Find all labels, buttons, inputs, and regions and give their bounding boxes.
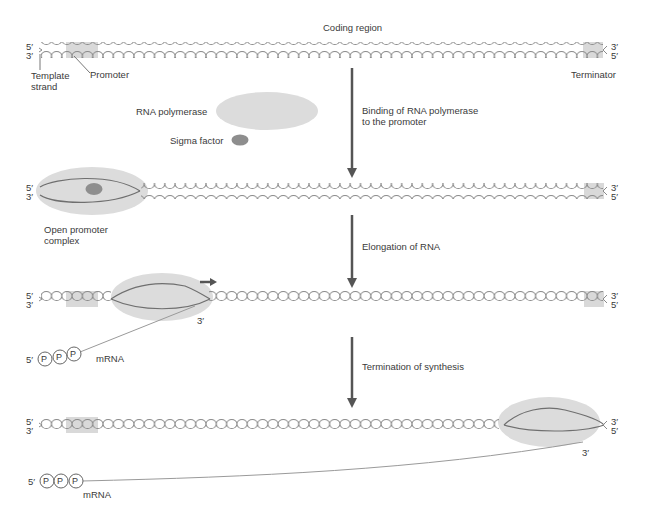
row3-mrna-3prime: 3′ [197, 316, 204, 325]
row4-mrna-3prime: 3′ [582, 448, 589, 457]
row1-left-3prime: 3′ [26, 51, 33, 60]
row3-p3: P [70, 350, 76, 359]
row3-mrna-5prime: 5′ [26, 355, 33, 364]
row1-right-5prime: 5′ [611, 51, 618, 60]
step-3-label: Termination of synthesis [362, 361, 464, 372]
rna-polymerase-label: RNA polymerase [136, 106, 207, 117]
row3-mrna-label: mRNA [96, 353, 124, 364]
template-strand-label: Template strand [31, 70, 70, 92]
row4-mrna-5prime: 5′ [28, 477, 35, 486]
coding-region-label: Coding region [323, 22, 382, 33]
step-arrow-2 [347, 215, 357, 288]
row4-p1: P [43, 477, 49, 486]
promoter-pointer [74, 56, 90, 73]
open-promoter-complex-label: Open promoter complex [44, 224, 108, 246]
bound-sigma-shape [86, 183, 103, 195]
row3-p2: P [56, 353, 62, 362]
sigma-factor-shape [232, 135, 249, 146]
terminating-polymerase-shape [498, 397, 600, 447]
step-arrow-1 [347, 68, 357, 178]
row4-p3: P [72, 477, 78, 486]
terminator-label: Terminator [571, 69, 616, 80]
row4-p2: P [57, 477, 63, 486]
promoter-label: Promoter [90, 69, 129, 80]
step-2-label: Elongation of RNA [362, 241, 440, 252]
row4-right-5prime: 5′ [611, 426, 618, 435]
row3-left-3prime: 3′ [26, 300, 33, 309]
elongating-polymerase-shape [111, 273, 213, 321]
step-1-label: Binding of RNA polymerase to the promote… [362, 105, 478, 127]
row2-left-3prime: 3′ [26, 192, 33, 201]
dna-row-2 [36, 167, 607, 215]
step-arrow-3 [347, 337, 357, 408]
sigma-factor-label: Sigma factor [170, 135, 223, 146]
mrna-strand-released [82, 442, 583, 481]
row4-left-3prime: 3′ [26, 426, 33, 435]
row2-right-5prime: 5′ [611, 192, 618, 201]
row4-mrna-label: mRNA [83, 489, 111, 500]
row3-p1: P [41, 355, 47, 364]
row3-right-5prime: 5′ [611, 300, 618, 309]
dna-row-4 [39, 397, 607, 488]
rna-polymerase-shape [216, 92, 318, 130]
